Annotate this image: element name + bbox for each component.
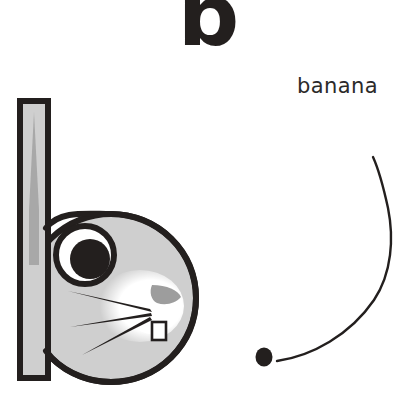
tooth (152, 322, 166, 340)
nose (151, 285, 181, 304)
worksheet-page: b banana (0, 0, 417, 402)
whisker-middle (70, 313, 152, 327)
stroke-curve (277, 157, 391, 361)
whisker-lower (82, 317, 152, 355)
head-circle (26, 214, 196, 382)
stroke-start-dot (256, 348, 273, 367)
muzzle (96, 270, 184, 342)
head-outline-overlay (46, 214, 196, 382)
whiskers (68, 291, 152, 355)
ear-stem (20, 101, 48, 378)
heading-letter-b: b (0, 0, 417, 58)
whisker-upper (68, 291, 152, 312)
word-label-banana: banana (297, 76, 378, 97)
eye (56, 226, 114, 284)
pupil (70, 239, 110, 279)
